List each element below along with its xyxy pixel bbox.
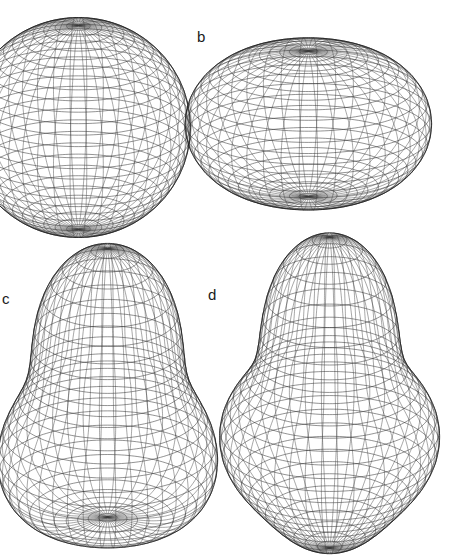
meridian-line <box>84 243 108 517</box>
meridian-line <box>108 248 177 540</box>
meridian-line <box>78 25 119 236</box>
parallel-ring <box>67 502 150 538</box>
meridian-line <box>108 248 148 545</box>
parallel-ring <box>19 361 197 439</box>
meridian-line <box>186 51 308 197</box>
parallel-ring <box>223 371 437 465</box>
parallel-ring <box>185 84 431 165</box>
meridian-line <box>308 51 431 196</box>
parallel-ring <box>284 243 377 284</box>
parallel-ring <box>257 473 402 536</box>
meridian-line <box>330 233 354 548</box>
meridian-line <box>330 237 439 548</box>
meridian-line <box>330 233 370 548</box>
meridian-line <box>100 243 108 517</box>
meridian-line <box>221 237 330 548</box>
silhouette-outline <box>220 233 440 554</box>
wireframe-mesh-d <box>173 223 452 559</box>
meridian-line <box>39 248 108 540</box>
meridian-line <box>108 243 116 517</box>
meridian-line <box>308 51 398 204</box>
parallel-ring <box>78 507 138 533</box>
meridian-line <box>308 51 430 197</box>
meridian-line <box>221 237 330 548</box>
meridian-line <box>17 247 108 517</box>
meridian-line <box>68 248 108 545</box>
parallel-ring <box>189 64 427 142</box>
meridian-line <box>330 233 338 548</box>
parallel-ring <box>31 326 185 393</box>
meridian-line <box>37 25 78 236</box>
meridian-line <box>78 18 119 229</box>
parallel-ring <box>241 347 420 425</box>
meridian-line <box>37 18 78 229</box>
meridian-line <box>218 44 308 197</box>
parallel-ring <box>252 335 408 403</box>
parallel-ring <box>29 336 186 405</box>
parallel-ring <box>189 106 427 184</box>
parallel-ring <box>241 449 418 526</box>
meridian-line <box>306 233 330 548</box>
meridian-line <box>186 51 308 197</box>
meridian-line <box>27 246 108 517</box>
meridian-line <box>308 44 398 197</box>
meridian-line <box>290 233 330 548</box>
meridian-line <box>330 237 370 553</box>
meridian-line <box>330 237 439 548</box>
parallel-ring <box>258 317 401 380</box>
parallel-ring <box>279 43 336 62</box>
parallel-ring <box>63 249 154 289</box>
parallel-ring <box>234 436 426 520</box>
meridian-line <box>0 248 108 520</box>
panel-label-b: b <box>197 29 205 44</box>
parallel-ring <box>223 409 437 503</box>
silhouette-outline <box>185 38 431 210</box>
meridian-line <box>308 51 430 197</box>
meridian-line <box>108 243 132 517</box>
panel-label-d: d <box>208 287 216 302</box>
meridian-line <box>185 51 308 196</box>
panel-label-c: c <box>2 291 10 306</box>
parallel-ring <box>38 285 179 346</box>
meridian-line <box>218 51 308 204</box>
panel-d-necked-shape <box>173 223 452 559</box>
meridian-line <box>290 237 330 553</box>
meridian-line <box>322 233 330 548</box>
parallel-ring <box>279 186 336 205</box>
parallel-ring <box>89 510 128 527</box>
